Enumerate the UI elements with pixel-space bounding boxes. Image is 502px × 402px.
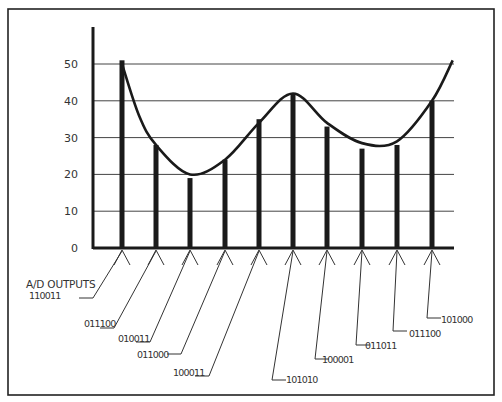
- leader-line: [356, 251, 370, 345]
- sample-bar: [360, 149, 365, 248]
- bars: [120, 60, 435, 248]
- leader-line: [272, 251, 293, 380]
- binary-code-label: 010011: [118, 333, 150, 344]
- leader-line: [315, 251, 329, 359]
- binary-code-label: 011100: [84, 318, 116, 329]
- arrowhead-icon: [114, 250, 130, 265]
- binary-code-label: 100001: [322, 354, 354, 365]
- sample-bar: [257, 119, 262, 248]
- binary-code-labels: 1100110111000100110110001000111010101000…: [29, 290, 473, 385]
- sample-bar: [430, 101, 435, 248]
- sample-bar: [120, 60, 125, 248]
- leader-line: [167, 251, 225, 354]
- gridlines: [93, 64, 454, 211]
- sample-bar: [395, 145, 400, 248]
- sample-bar: [188, 178, 193, 248]
- figure-frame: 01020304050 A/D OUTPUTS 1100110111000100…: [0, 0, 502, 402]
- sample-bar: [325, 127, 330, 248]
- analog-waveform-curve: [122, 60, 453, 175]
- y-tick-label: 0: [71, 242, 78, 255]
- binary-code-label: 110011: [29, 290, 61, 301]
- sample-bar: [223, 160, 228, 248]
- arrowhead-icon: [148, 250, 164, 265]
- x-axis-label: A/D OUTPUTS: [26, 278, 96, 290]
- leader-line: [100, 251, 156, 328]
- leader-line: [393, 251, 407, 331]
- sample-bar: [291, 93, 296, 248]
- y-tick-label: 20: [64, 168, 78, 181]
- leader-line: [427, 251, 441, 318]
- binary-code-label: 011000: [137, 349, 169, 360]
- y-tick-label: 10: [64, 205, 78, 218]
- binary-code-label: 100011: [173, 367, 205, 378]
- binary-code-label: 101010: [286, 374, 318, 385]
- sample-bar: [154, 145, 159, 248]
- y-tick-label: 40: [64, 95, 78, 108]
- sample-arrows: [79, 250, 441, 380]
- adc-sampling-chart: 01020304050 A/D OUTPUTS 1100110111000100…: [0, 0, 502, 402]
- binary-code-label: 011100: [409, 328, 441, 339]
- binary-code-label: 011011: [365, 340, 397, 351]
- leader-line: [195, 251, 259, 376]
- binary-code-label: 101000: [441, 314, 473, 325]
- y-tick-label: 30: [64, 132, 78, 145]
- y-tick-label: 50: [64, 58, 78, 71]
- leader-line: [79, 251, 122, 298]
- y-axis-ticks: 01020304050: [64, 58, 78, 255]
